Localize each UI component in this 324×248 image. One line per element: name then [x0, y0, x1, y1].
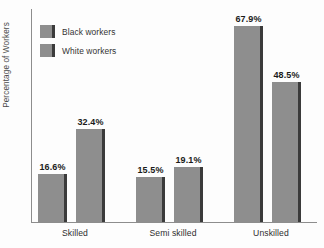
bar — [272, 82, 301, 222]
bar-value-label: 67.9% — [226, 14, 271, 24]
x-axis-line — [31, 222, 317, 223]
plot-area: 16.6% 32.4% 15.5% 19.1% 67.9% 48.5% — [31, 9, 317, 222]
bar — [234, 26, 263, 222]
category-label-skilled: Skilled — [45, 228, 105, 238]
y-axis-title: Percentage of Workers — [0, 10, 14, 120]
bar — [38, 174, 67, 222]
bar — [136, 177, 165, 222]
bar-value-label: 32.4% — [68, 117, 113, 127]
bar-value-label: 19.1% — [166, 155, 211, 165]
bar — [76, 129, 105, 222]
bar — [174, 167, 203, 222]
bar-chart: Percentage of Workers Black workers Whit… — [0, 0, 324, 248]
bar-value-label: 16.6% — [30, 162, 75, 172]
bar-value-label: 15.5% — [128, 165, 173, 175]
bar-value-label: 48.5% — [264, 70, 309, 80]
category-label-semi-skilled: Semi skilled — [143, 228, 203, 238]
category-label-unskilled: Unskilled — [241, 228, 301, 238]
